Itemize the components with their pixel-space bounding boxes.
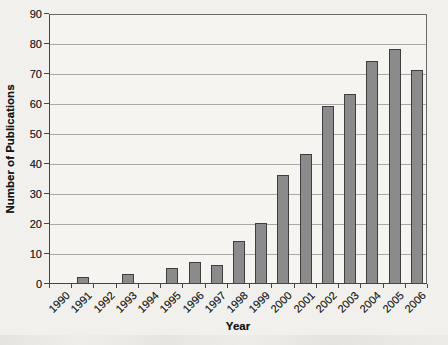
bar-2000 [277, 175, 289, 283]
x-axis-title: Year [226, 320, 250, 332]
y-tick-mark-40 [44, 163, 49, 164]
bar-1993 [122, 274, 134, 283]
bar-2003 [344, 94, 356, 283]
y-tick-mark-80 [44, 43, 49, 44]
x-tick-mark-14 [360, 284, 361, 288]
y-tick-label-90: 90 [14, 7, 42, 21]
x-tick-label-2001: 2001 [291, 289, 317, 315]
plot-area [49, 14, 427, 284]
x-tick-mark-8 [227, 284, 228, 288]
x-tick-label-1991: 1991 [68, 289, 94, 315]
y-tick-mark-60 [44, 103, 49, 104]
bar-1999 [255, 223, 267, 283]
x-tick-mark-12 [316, 284, 317, 288]
x-tick-mark-0 [49, 284, 50, 288]
x-tick-label-2000: 2000 [268, 289, 294, 315]
bar-1998 [233, 241, 245, 283]
bar-1997 [211, 265, 223, 283]
bar-2001 [300, 154, 312, 283]
x-tick-label-2002: 2002 [313, 289, 339, 315]
y-tick-mark-90 [44, 13, 49, 14]
bar-1996 [189, 262, 201, 283]
x-tick-label-1995: 1995 [157, 289, 183, 315]
y-tick-label-70: 70 [14, 67, 42, 81]
bar-2005 [389, 49, 401, 283]
x-tick-label-2006: 2006 [402, 289, 428, 315]
bar-2004 [366, 61, 378, 283]
y-tick-mark-50 [44, 133, 49, 134]
y-tick-mark-70 [44, 73, 49, 74]
x-tick-label-2005: 2005 [380, 289, 406, 315]
x-tick-mark-10 [271, 284, 272, 288]
bar-2002 [322, 106, 334, 283]
x-tick-label-1992: 1992 [91, 289, 117, 315]
x-tick-mark-13 [338, 284, 339, 288]
y-tick-label-0: 0 [14, 277, 42, 291]
x-tick-mark-15 [383, 284, 384, 288]
x-tick-mark-11 [294, 284, 295, 288]
x-tick-mark-9 [249, 284, 250, 288]
x-tick-label-1997: 1997 [202, 289, 228, 315]
x-tick-mark-16 [405, 284, 406, 288]
x-tick-label-1996: 1996 [180, 289, 206, 315]
x-tick-label-2004: 2004 [357, 289, 383, 315]
x-tick-label-1999: 1999 [246, 289, 272, 315]
y-tick-mark-20 [44, 223, 49, 224]
x-tick-label-1990: 1990 [46, 289, 72, 315]
x-tick-label-2003: 2003 [335, 289, 361, 315]
scan-artifact [0, 335, 448, 345]
x-tick-mark-7 [205, 284, 206, 288]
x-tick-mark-6 [182, 284, 183, 288]
x-tick-mark-3 [116, 284, 117, 288]
x-tick-mark-2 [93, 284, 94, 288]
y-tick-label-20: 20 [14, 217, 42, 231]
bar-1991 [77, 277, 89, 283]
x-tick-mark-4 [138, 284, 139, 288]
x-tick-mark-1 [71, 284, 72, 288]
y-tick-label-60: 60 [14, 97, 42, 111]
y-tick-mark-30 [44, 193, 49, 194]
bar-1995 [166, 268, 178, 283]
x-tick-mark-17 [427, 284, 428, 288]
y-tick-label-30: 30 [14, 187, 42, 201]
y-tick-label-80: 80 [14, 37, 42, 51]
gridline-y-80 [50, 44, 426, 45]
x-tick-label-1998: 1998 [224, 289, 250, 315]
y-tick-mark-10 [44, 253, 49, 254]
x-tick-mark-5 [160, 284, 161, 288]
bar-2006 [411, 70, 423, 283]
y-tick-label-10: 10 [14, 247, 42, 261]
x-tick-label-1994: 1994 [135, 289, 161, 315]
publications-by-year-bar-chart: Number of Publications 01020304050607080… [0, 0, 448, 345]
x-tick-label-1993: 1993 [113, 289, 139, 315]
y-tick-label-40: 40 [14, 157, 42, 171]
y-tick-label-50: 50 [14, 127, 42, 141]
